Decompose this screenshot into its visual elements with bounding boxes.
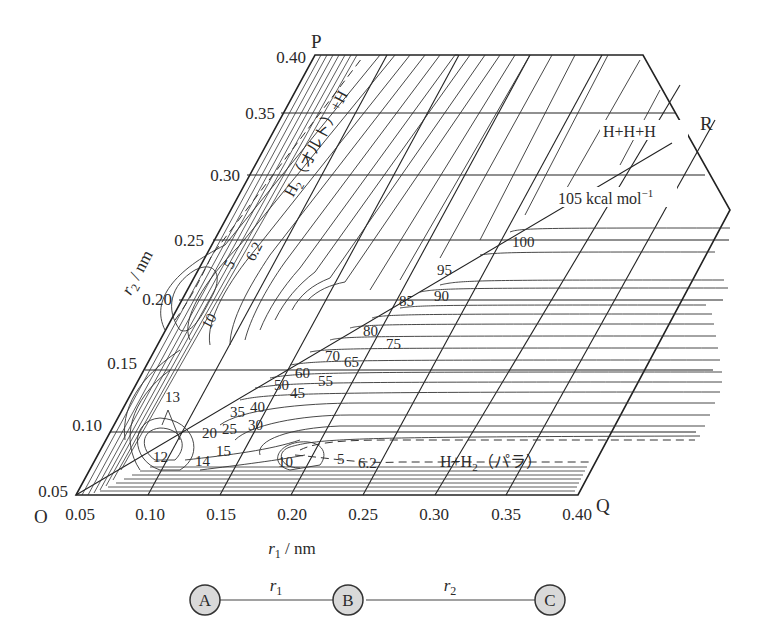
- svg-text:0.30: 0.30: [419, 505, 449, 524]
- svg-text:65: 65: [344, 354, 359, 370]
- svg-text:95: 95: [437, 262, 452, 278]
- corner-label-r: R: [700, 113, 713, 134]
- svg-text:0.05: 0.05: [65, 505, 95, 524]
- svg-text:40: 40: [250, 399, 265, 415]
- svg-text:70: 70: [325, 348, 340, 364]
- svg-text:35: 35: [230, 404, 245, 420]
- svg-text:0.10: 0.10: [135, 505, 165, 524]
- svg-text:0.20: 0.20: [142, 290, 172, 309]
- svg-text:10: 10: [278, 454, 293, 470]
- svg-text:0.10: 0.10: [72, 416, 102, 435]
- svg-text:60: 60: [295, 365, 310, 381]
- svg-text:75: 75: [386, 336, 401, 352]
- corner-label-q: Q: [596, 495, 610, 516]
- svg-text:14: 14: [195, 453, 211, 469]
- bottom-wall-contours: [100, 467, 587, 491]
- saddle-contours: [124, 350, 305, 470]
- potential-energy-surface-figure: P O Q R 0.05 0.10 0.15 0.20 0.25 0.30 0.…: [0, 0, 764, 639]
- r1-tick-labels: 0.05 0.10 0.15 0.20 0.25 0.30 0.35 0.40: [65, 505, 592, 524]
- r1-axis-title: r1 / nm: [268, 539, 316, 561]
- svg-text:0.25: 0.25: [174, 231, 204, 250]
- corner-label-o: O: [34, 506, 48, 527]
- svg-text:0.30: 0.30: [210, 166, 240, 185]
- energy-label-105: 105 kcal mol−1: [558, 187, 653, 207]
- corner-label-p: P: [311, 31, 322, 52]
- svg-text:0.20: 0.20: [277, 505, 307, 524]
- svg-text:5: 5: [337, 451, 345, 467]
- svg-text:25: 25: [222, 421, 237, 437]
- molecule-diagram: A B C r1 r2: [190, 576, 565, 615]
- svg-text:A: A: [199, 591, 212, 610]
- svg-text:45: 45: [290, 385, 305, 401]
- svg-text:80: 80: [363, 323, 378, 339]
- svg-text:0.25: 0.25: [348, 505, 378, 524]
- left-wall-contours: [82, 55, 357, 495]
- svg-text:85: 85: [399, 293, 414, 309]
- svg-text:15: 15: [216, 443, 231, 459]
- svg-text:C: C: [544, 591, 555, 610]
- svg-text:0.15: 0.15: [206, 505, 236, 524]
- svg-text:50: 50: [274, 377, 289, 393]
- bond-label-r2: r2: [444, 576, 457, 598]
- svg-text:30: 30: [248, 417, 263, 433]
- svg-text:100: 100: [512, 234, 535, 250]
- svg-text:55: 55: [318, 373, 333, 389]
- svg-text:5: 5: [221, 257, 239, 271]
- svg-text:0.15: 0.15: [107, 354, 137, 373]
- svg-text:B: B: [342, 591, 353, 610]
- svg-text:0.40: 0.40: [562, 505, 592, 524]
- svg-text:6.2: 6.2: [358, 455, 377, 471]
- svg-text:12: 12: [153, 449, 168, 465]
- svg-text:13: 13: [165, 389, 180, 405]
- svg-text:0.35: 0.35: [491, 505, 521, 524]
- region-label-h-h-h: H+H+H: [603, 123, 656, 140]
- bottom-valley-dashed-upper: [300, 440, 695, 450]
- bond-label-r1: r1: [270, 576, 283, 598]
- svg-text:0.40: 0.40: [276, 48, 306, 67]
- region-label-h-h2-para: H+H2（パラ）: [440, 453, 542, 473]
- svg-text:90: 90: [434, 288, 449, 304]
- svg-text:0.05: 0.05: [38, 482, 68, 501]
- svg-text:20: 20: [202, 425, 217, 441]
